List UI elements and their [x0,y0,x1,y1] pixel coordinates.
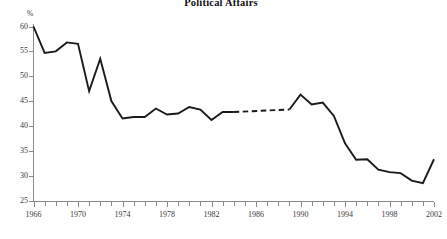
data-series-line [289,95,434,183]
data-series-line [34,27,234,120]
data-series-line [234,110,290,112]
